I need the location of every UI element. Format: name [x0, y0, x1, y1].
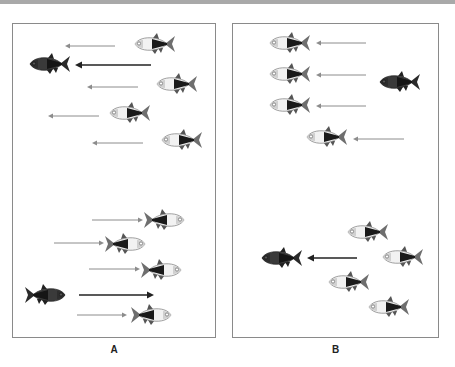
prey-fish-icon	[270, 32, 310, 53]
prey-fish-icon	[131, 304, 171, 325]
prey-fish-icon	[144, 209, 184, 230]
prey-fish-icon	[383, 246, 423, 267]
prey-fish-icon	[348, 221, 388, 242]
panel-b-label: B	[326, 344, 346, 355]
prey-direction-arrow-icon	[77, 313, 127, 318]
prey-fish-icon	[329, 271, 369, 292]
prey-direction-arrow-icon	[92, 141, 143, 146]
panel-b	[232, 23, 439, 338]
prey-fish-icon	[105, 233, 145, 254]
prey-fish-icon	[135, 33, 175, 54]
panel-b-drawing	[233, 24, 440, 339]
prey-direction-arrow-icon	[316, 104, 366, 109]
predator-fish-icon	[25, 284, 65, 305]
panel-a-label: A	[104, 344, 124, 355]
predator-fish-icon	[380, 71, 420, 92]
prey-fish-icon	[369, 296, 409, 317]
prey-fish-icon	[141, 259, 181, 280]
prey-fish-icon	[157, 73, 197, 94]
predator-fish-icon	[30, 53, 70, 74]
prey-fish-icon	[270, 63, 310, 84]
prey-direction-arrow-icon	[316, 73, 366, 78]
prey-direction-arrow-icon	[89, 267, 140, 272]
predator-direction-arrow-icon	[79, 292, 154, 299]
panel-a	[12, 23, 216, 338]
prey-direction-arrow-icon	[92, 218, 143, 223]
prey-direction-arrow-icon	[48, 114, 99, 119]
top-strip	[0, 0, 455, 4]
predator-fish-icon	[262, 247, 302, 268]
prey-direction-arrow-icon	[54, 241, 104, 246]
prey-fish-icon	[110, 102, 150, 123]
prey-direction-arrow-icon	[65, 44, 115, 49]
predator-direction-arrow-icon	[307, 255, 357, 262]
prey-fish-icon	[270, 94, 310, 115]
prey-direction-arrow-icon	[353, 137, 404, 142]
prey-fish-icon	[307, 126, 347, 147]
prey-direction-arrow-icon	[316, 41, 366, 46]
prey-direction-arrow-icon	[87, 85, 138, 90]
panel-a-drawing	[13, 24, 217, 339]
prey-fish-icon	[162, 129, 202, 150]
predator-direction-arrow-icon	[75, 62, 151, 69]
